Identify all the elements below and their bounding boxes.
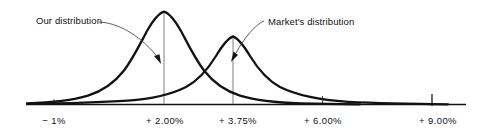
axis-tick-label-plus-2: + 2.00% [146, 116, 184, 126]
leader-line-our [99, 22, 156, 55]
distribution-chart-figure: Our distribution Market's distribution −… [0, 0, 481, 133]
axis-tick-label-plus-9: + 9.00% [419, 116, 457, 126]
axis-tick-label-plus-3-75: + 3.75% [219, 116, 257, 126]
leader-line-market [236, 21, 264, 53]
axis-tick-label-plus-6: + 6.00% [304, 116, 342, 126]
annotation-our-distribution: Our distribution [36, 16, 102, 26]
leader-our-distribution [99, 22, 161, 64]
arrowhead-market [231, 52, 238, 63]
axis-tick-label-minus-1: − 1% [42, 116, 66, 126]
annotation-market-distribution: Market's distribution [268, 17, 354, 27]
arrowhead-our [154, 54, 161, 64]
leader-market-distribution [231, 21, 264, 62]
